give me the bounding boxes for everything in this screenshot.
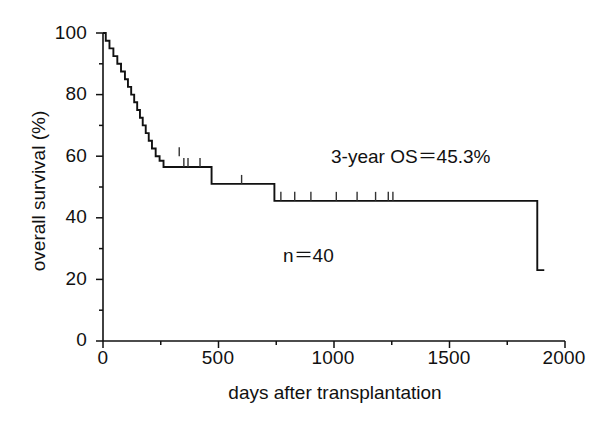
y-tick-label-100: 100 [32,22,87,44]
sample-size-annotation: n＝40 [283,240,334,267]
x-tick-label-0: 0 [73,347,133,369]
x-tick-label-2000: 2000 [534,347,594,369]
x-tick-label-500: 500 [188,347,248,369]
y-axis-ticks [96,33,103,341]
three-year-os-annotation: 3-year OS＝45.3% [331,141,490,168]
y-axis-label-container: overall survival (%) [24,66,54,316]
x-axis-label: days after transplantation [100,382,570,404]
axis-lines [103,33,565,341]
y-axis-label: overall survival (%) [28,111,50,271]
survival-chart-figure: 100 80 60 40 20 0 0 500 1000 1500 2000 o… [0,0,604,425]
x-tick-label-1000: 1000 [303,347,363,369]
x-tick-label-1500: 1500 [419,347,479,369]
